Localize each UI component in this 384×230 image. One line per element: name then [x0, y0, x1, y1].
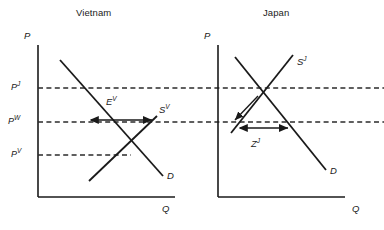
figure-canvas: [0, 0, 384, 230]
export-flow-label-vietnam: EV: [106, 96, 117, 107]
supply-curve-label-japan-sup: J: [303, 55, 306, 62]
supply-curve-label-vietnam-sup: V: [165, 103, 169, 110]
vietnam-x-axis-label: Q: [162, 203, 169, 214]
price-label-pv-sup: V: [17, 147, 21, 154]
panel-title-vietnam: Vietnam: [76, 7, 111, 18]
price-label-pj-sup: J: [17, 80, 20, 87]
demand-curve-label-vietnam: D: [167, 170, 174, 181]
price-label-pj: PJ: [11, 82, 20, 92]
supply-demand-figure: Vietnam P Q PJ PW PV SV D EV Japan P Q S…: [0, 0, 384, 230]
export-flow-label-sup: V: [112, 95, 116, 102]
panel-title-japan: Japan: [263, 7, 289, 18]
import-flow-label-japan: ZJ: [251, 138, 260, 149]
supply-curve-label-vietnam: SV: [159, 104, 170, 115]
supply-curve-label-japan: SJ: [297, 56, 307, 67]
price-adjustment-arrow-japan: [235, 96, 258, 120]
demand-curve-japan: [235, 57, 326, 170]
japan-panel-graphics: [218, 45, 345, 197]
price-label-pw: PW: [8, 116, 20, 126]
demand-curve-label-japan: D: [330, 165, 337, 176]
japan-x-axis-label: Q: [352, 203, 359, 214]
vietnam-y-axis-label: P: [24, 30, 30, 41]
supply-curve-japan: [231, 55, 293, 133]
price-label-pw-sup: W: [14, 114, 20, 121]
japan-y-axis-label: P: [204, 30, 210, 41]
supply-curve-vietnam: [89, 116, 157, 181]
price-label-pv: PV: [11, 149, 21, 159]
import-flow-label-sup: J: [257, 137, 260, 144]
